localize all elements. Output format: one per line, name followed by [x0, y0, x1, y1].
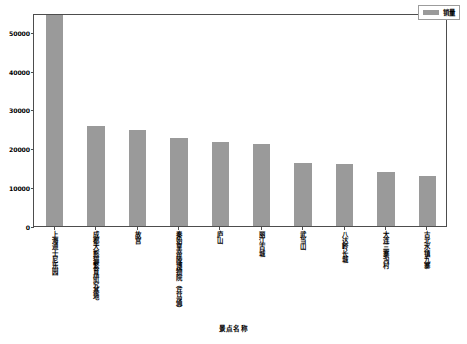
x-axis-tick-mark	[54, 227, 55, 230]
y-axis-tick-label: 50000	[9, 29, 34, 39]
x-axis-tick-label: 古北水镇九寨	[419, 231, 433, 323]
x-axis-tick-mark	[385, 227, 386, 230]
bar	[294, 163, 311, 227]
bar	[129, 130, 146, 226]
y-axis-tick: 30000	[9, 106, 34, 116]
legend-label-sales: 销量	[443, 8, 455, 17]
bar	[212, 142, 229, 226]
x-axis-tick-label-text: 武当山	[298, 231, 305, 250]
x-axis-tick-label: 故宫	[130, 231, 144, 323]
x-axis-tick-label-text: 秦始皇帝陵博物院（兵马俑）	[174, 231, 181, 312]
plot-area	[33, 14, 447, 227]
x-axis-title: 景点名称	[0, 323, 467, 333]
x-axis-tick-label-text: 古北水镇九寨	[423, 231, 430, 268]
x-axis-tick-label-text: 上海迪士尼乐园	[50, 231, 57, 274]
x-axis-tick-labels: 上海迪士尼乐园成都大熊猫繁育研究基地故宫秦始皇帝陵博物院（兵马俑）庐山丽江古城武…	[33, 231, 447, 323]
y-axis-tick-label: 20000	[9, 145, 34, 155]
x-axis-tick-label: 八达岭长城	[337, 231, 351, 323]
legend: 销量	[418, 5, 460, 20]
bar	[419, 176, 436, 226]
y-axis-tick: 40000	[9, 67, 34, 77]
x-axis-tick-mark	[261, 227, 262, 230]
x-axis-tick-label: 庐山	[212, 231, 226, 323]
bar	[377, 172, 394, 226]
y-axis-tick: 50000	[9, 28, 34, 38]
bar	[336, 164, 353, 226]
bar	[253, 144, 270, 226]
x-axis-tick-mark	[137, 227, 138, 230]
bar	[87, 126, 104, 226]
x-axis-tick-label: 丽江古城	[254, 231, 268, 323]
x-axis-tick-label-text: 八达岭长城	[340, 231, 347, 262]
y-axis-tick: 20000	[9, 145, 34, 155]
x-axis-tick-mark	[95, 227, 96, 230]
bar	[46, 14, 63, 226]
x-axis-tick-label: 大连三寨沟村	[378, 231, 392, 323]
x-axis-tick-label: 上海迪士尼乐园	[47, 231, 61, 323]
x-axis-tick-label: 武当山	[295, 231, 309, 323]
y-axis: 01000020000300004000050000	[0, 0, 34, 228]
y-axis-tick-label: 30000	[9, 106, 34, 116]
x-axis-tick-label-text: 大连三寨沟村	[381, 231, 388, 268]
x-axis-tick-label: 成都大熊猫繁育研究基地	[88, 231, 102, 323]
bar-chart-figure: 01000020000300004000050000 上海迪士尼乐园成都大熊猫繁…	[0, 0, 467, 344]
x-axis-tick-mark	[426, 227, 427, 230]
y-axis-tick-label: 40000	[9, 68, 34, 78]
x-axis-tick-mark	[302, 227, 303, 230]
x-axis-tick-label-text: 庐山	[216, 231, 223, 243]
x-axis-tick-mark	[219, 227, 220, 230]
bar	[170, 138, 187, 226]
x-axis-tick-label-text: 故宫	[133, 231, 140, 243]
x-axis-tick-label: 秦始皇帝陵博物院（兵马俑）	[171, 231, 185, 323]
x-axis-tick-mark	[178, 227, 179, 230]
x-axis-tick-label-text: 成都大熊猫繁育研究基地	[91, 231, 98, 299]
legend-swatch-sales	[423, 10, 439, 15]
y-axis-tick: 10000	[9, 183, 34, 193]
y-axis-tick-label: 10000	[9, 184, 34, 194]
x-axis-tick-mark	[344, 227, 345, 230]
x-axis-tick-label-text: 丽江古城	[257, 231, 264, 256]
